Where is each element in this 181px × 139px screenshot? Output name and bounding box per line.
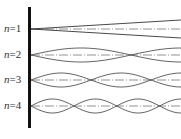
wave-envelope-curve (31, 29, 181, 38)
standing-wave-diagram (0, 0, 181, 139)
mode-label-n3: n=3 (4, 74, 21, 85)
wave-envelope-curve (31, 20, 181, 29)
closed-end-wall (28, 7, 31, 128)
mode-label-n4: n=4 (4, 100, 21, 111)
mode-label-n1: n=1 (4, 23, 21, 34)
mode-curves (31, 20, 181, 113)
mode-label-n2: n=2 (4, 49, 21, 60)
